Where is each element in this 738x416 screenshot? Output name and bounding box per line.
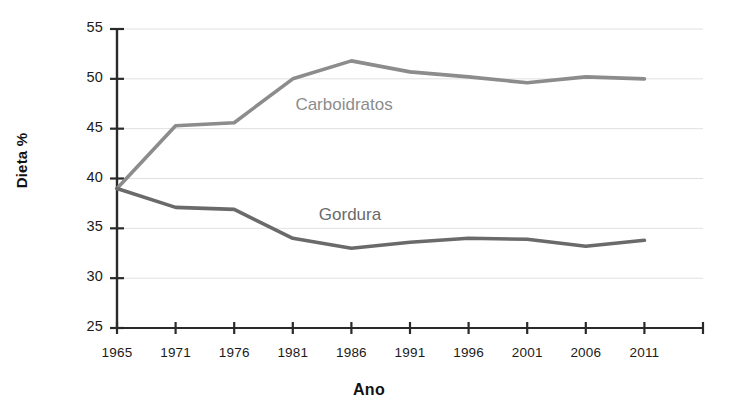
y-tick-label: 45	[61, 119, 103, 135]
x-tick-label: 1981	[263, 345, 323, 360]
gridlines	[117, 29, 703, 328]
x-tick-label: 1991	[380, 345, 440, 360]
x-tick-label: 1971	[146, 345, 206, 360]
x-tick-label: 2001	[497, 345, 557, 360]
y-tick-label: 40	[61, 169, 103, 185]
line-chart: Dieta % Ano 25303540455055 1965197119761…	[0, 0, 738, 416]
y-axis	[110, 29, 124, 328]
x-axis	[117, 322, 703, 334]
x-tick-label: 1986	[321, 345, 381, 360]
x-tick-label: 2006	[556, 345, 616, 360]
x-tick-label: 1976	[204, 345, 264, 360]
series-line-carboidratos	[117, 61, 644, 189]
y-tick-label: 25	[61, 318, 103, 334]
series-label-gordura: Gordura	[319, 205, 381, 225]
y-tick-label: 35	[61, 218, 103, 234]
x-tick-label: 1965	[87, 345, 147, 360]
x-tick-label: 2011	[614, 345, 674, 360]
series-label-carboidratos: Carboidratos	[295, 95, 392, 115]
y-tick-label: 55	[61, 19, 103, 35]
y-tick-label: 50	[61, 69, 103, 85]
x-tick-label: 1996	[439, 345, 499, 360]
y-tick-label: 30	[61, 268, 103, 284]
